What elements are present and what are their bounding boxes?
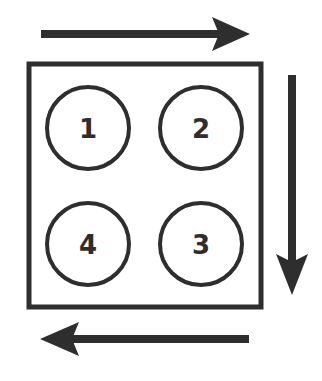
rotation-diagram: 1 2 3 4 bbox=[0, 0, 322, 381]
arrow-down-icon bbox=[276, 75, 308, 295]
slot-label: 2 bbox=[192, 114, 210, 144]
slot-3: 3 bbox=[160, 203, 242, 285]
arrow-right-icon bbox=[41, 17, 250, 51]
slot-label: 1 bbox=[79, 114, 97, 144]
slot-1: 1 bbox=[47, 87, 129, 169]
slot-4: 4 bbox=[47, 203, 129, 285]
slot-label: 4 bbox=[79, 230, 97, 260]
arrow-left-icon bbox=[40, 322, 249, 356]
slot-2: 2 bbox=[160, 87, 242, 169]
container-box bbox=[29, 64, 261, 307]
slot-label: 3 bbox=[192, 230, 210, 260]
